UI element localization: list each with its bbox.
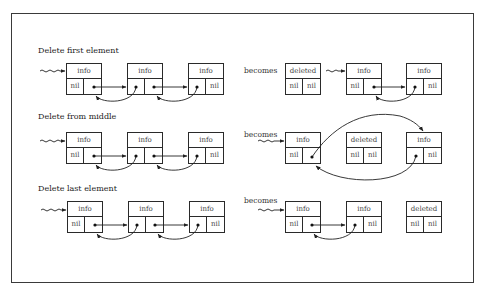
list-node: info nil (285, 201, 321, 233)
list-node: info (127, 63, 163, 95)
node-prev: nil (286, 217, 303, 232)
list-node: info nil (188, 132, 224, 164)
becomes-label: becomes (244, 130, 277, 139)
node-next: nil (206, 148, 223, 163)
list-node: info (127, 132, 163, 164)
node-prev (190, 217, 207, 232)
node-next (364, 79, 381, 94)
node-info: info (128, 133, 162, 148)
node-info: info (347, 202, 381, 217)
node-info: info (67, 133, 101, 148)
row-title-delete-middle: Delete from middle (38, 112, 116, 121)
deleted-node: deleted nil nil (285, 63, 321, 95)
node-next: nil (303, 79, 320, 94)
node-next: nil (364, 217, 381, 232)
node-prev: nil (347, 79, 364, 94)
node-info: info (190, 202, 224, 217)
deleted-node: deleted nil nil (406, 201, 442, 233)
node-prev: nil (407, 217, 424, 232)
node-info: info (286, 133, 320, 148)
node-prev (128, 79, 145, 94)
list-node: info nil (66, 63, 102, 95)
node-info: deleted (286, 64, 320, 79)
node-info: info (128, 64, 162, 79)
node-info: info (129, 202, 163, 217)
list-node: info nil (346, 63, 382, 95)
node-info: deleted (407, 202, 441, 217)
node-next: nil (424, 79, 441, 94)
node-next (84, 79, 101, 94)
list-node: info nil (67, 201, 103, 233)
row-title-delete-last: Delete last element (38, 184, 117, 193)
doubly-linked-list-deletion-figure: Delete first element becomes info nil in… (0, 0, 487, 293)
node-prev: nil (68, 217, 85, 232)
list-node: info nil (406, 63, 442, 95)
node-info: info (407, 133, 441, 148)
node-next (145, 79, 162, 94)
node-info: info (286, 202, 320, 217)
node-next (145, 148, 162, 163)
list-node: info nil (188, 63, 224, 95)
node-next (84, 148, 101, 163)
node-prev: nil (286, 148, 303, 163)
becomes-label: becomes (244, 66, 277, 75)
node-prev (189, 148, 206, 163)
row-title-delete-first: Delete first element (38, 46, 119, 55)
node-next: nil (424, 148, 441, 163)
node-prev: nil (67, 148, 84, 163)
node-prev (347, 217, 364, 232)
list-node: info nil (406, 132, 442, 164)
node-prev: nil (347, 148, 364, 163)
node-prev: nil (286, 79, 303, 94)
node-prev (128, 148, 145, 163)
node-next (85, 217, 102, 232)
node-info: info (189, 64, 223, 79)
node-prev (407, 148, 424, 163)
list-node: info nil (285, 132, 321, 164)
node-info: deleted (347, 133, 381, 148)
list-node: info nil (66, 132, 102, 164)
node-info: info (67, 64, 101, 79)
node-prev (407, 79, 424, 94)
list-node: info (128, 201, 164, 233)
list-node: info nil (346, 201, 382, 233)
node-next: nil (207, 217, 224, 232)
node-info: info (407, 64, 441, 79)
node-prev (189, 79, 206, 94)
deleted-node: deleted nil nil (346, 132, 382, 164)
node-next (146, 217, 163, 232)
node-info: info (68, 202, 102, 217)
node-info: info (189, 133, 223, 148)
node-next: nil (424, 217, 441, 232)
node-next: nil (364, 148, 381, 163)
becomes-label: becomes (244, 196, 277, 205)
node-prev: nil (67, 79, 84, 94)
node-prev (129, 217, 146, 232)
node-info: info (347, 64, 381, 79)
list-node: info nil (189, 201, 225, 233)
node-next: nil (206, 79, 223, 94)
node-next (303, 217, 320, 232)
node-next (303, 148, 320, 163)
